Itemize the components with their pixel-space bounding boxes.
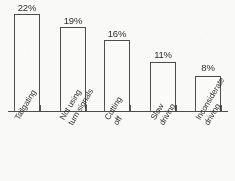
axis-tick — [14, 105, 15, 111]
axis-tick — [40, 105, 41, 111]
value-label-2: 16% — [108, 28, 126, 39]
axis-tick — [104, 105, 105, 111]
value-label-3: 11% — [154, 49, 172, 60]
axis-tick — [195, 105, 196, 111]
value-label-4: 8% — [201, 62, 214, 73]
plot-area: 22% 19% 16% 11% 8% Tailgating Not using … — [0, 0, 235, 181]
bar-chart: 22% 19% 16% 11% 8% Tailgating Not using … — [0, 0, 235, 181]
value-label-1: 19% — [64, 15, 82, 26]
value-label-0: 22% — [18, 2, 36, 13]
axis-tick — [150, 105, 151, 111]
